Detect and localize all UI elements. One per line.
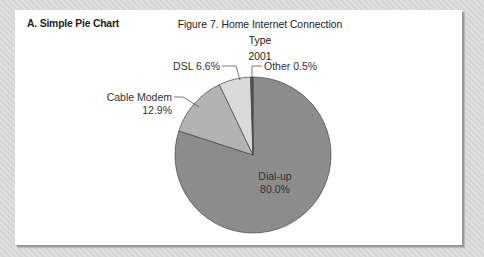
- label-cable-value: 12.9%: [142, 104, 172, 116]
- pie-slices: [175, 77, 331, 233]
- label-dialup-value: 80.0%: [260, 183, 290, 195]
- label-other: Other 0.5%: [264, 60, 317, 72]
- label-dsl: DSL 6.6%: [173, 60, 220, 72]
- pie-chart: Other 0.5% DSL 6.6% Cable Modem 12.9% Di…: [0, 0, 484, 257]
- label-cable-name: Cable Modem: [107, 91, 173, 103]
- leader-line-dsl: [222, 66, 240, 80]
- label-dialup-name: Dial-up: [258, 170, 291, 182]
